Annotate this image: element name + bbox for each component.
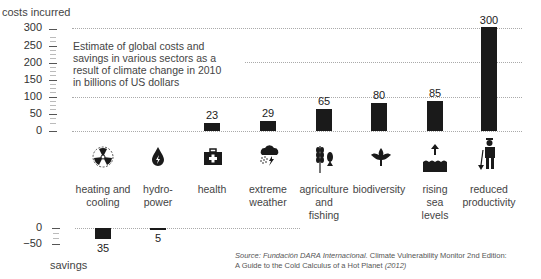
cat-line: productivity	[454, 196, 524, 209]
source-citation: Source: Fundación DARA Internacional. Cl…	[235, 251, 541, 271]
minor-tick	[50, 123, 56, 124]
minor-tick	[50, 109, 56, 110]
source-line-1: Source: Fundación DARA Internacional. Cl…	[235, 251, 541, 261]
minor-tick	[50, 58, 56, 59]
bar-reduced-productivity	[481, 27, 497, 131]
source-title: Climate Vulnerability Monitor 2nd Editio…	[368, 251, 507, 260]
bar-extreme-weather	[260, 121, 276, 131]
tick-mark	[49, 80, 57, 81]
minor-tick	[50, 37, 56, 38]
water-drop-lightning-icon	[146, 145, 170, 169]
tick-mark	[52, 244, 60, 245]
radiator-fan-icon	[91, 145, 115, 169]
minor-tick	[50, 84, 56, 85]
first-aid-kit-icon	[201, 145, 225, 169]
cat-line: and	[289, 196, 359, 209]
source-line-2: A Guide to the Cold Calculus of a Hot Pl…	[235, 261, 541, 271]
bar-biodiversity	[371, 103, 387, 131]
costs-axis-title: costs incurred	[2, 6, 70, 18]
minor-tick	[50, 50, 56, 51]
desc-line: in billions of US dollars	[73, 76, 263, 88]
tick-150: 150	[2, 73, 42, 85]
bar-rising-sea-levels	[427, 101, 443, 131]
worker-with-shovel-icon	[477, 136, 501, 172]
tick-50: 50	[2, 107, 42, 119]
sea-level-rise-icon	[421, 142, 449, 174]
desc-line: Estimate of global costs and	[73, 40, 263, 52]
storm-cloud-icon	[257, 144, 281, 168]
value-hydropower: 5	[138, 232, 178, 244]
value-rising-sea-levels: 85	[415, 87, 455, 99]
cat-line: levels	[400, 209, 470, 222]
tick-mark	[49, 131, 57, 132]
bar-health	[204, 123, 220, 131]
value-health: 23	[192, 109, 232, 121]
tick-300: 300	[2, 21, 42, 33]
minor-tick	[50, 71, 56, 72]
minor-tick	[50, 41, 56, 42]
desc-line: savings in various sectors as a	[73, 52, 263, 64]
tick-100: 100	[2, 90, 42, 102]
cat-line: reduced	[454, 183, 524, 196]
minor-tick	[50, 92, 56, 93]
tick-mark	[49, 63, 57, 64]
bar-agriculture	[316, 109, 332, 131]
bar-heating-cooling-savings	[95, 228, 111, 239]
minor-tick	[50, 105, 56, 106]
minor-tick	[53, 238, 59, 239]
value-extreme-weather: 29	[248, 107, 288, 119]
source-year: (2012)	[385, 261, 407, 270]
savings-axis-title: savings	[50, 259, 87, 271]
tick-mark	[49, 97, 57, 98]
gridline-0	[72, 131, 522, 132]
wheat-fish-icon	[313, 142, 337, 174]
value-biodiversity: 80	[359, 89, 399, 101]
value-agriculture: 65	[304, 95, 344, 107]
tick-mark	[49, 46, 57, 47]
minor-tick	[53, 233, 59, 234]
tick-mark	[49, 114, 57, 115]
savings-tick-minus-50: −50	[2, 237, 42, 249]
tick-200: 200	[2, 56, 42, 68]
tick-250: 250	[2, 39, 42, 51]
minor-tick	[50, 88, 56, 89]
category-reduced-productivity: reduced productivity	[454, 183, 524, 209]
leaf-icon	[369, 145, 393, 169]
minor-tick	[50, 54, 56, 55]
source-prefix: Source: Fundación DARA Internacional.	[235, 251, 368, 260]
cat-line: fishing	[289, 209, 359, 222]
desc-line: result of climate change in 2010	[73, 64, 263, 76]
bar-hydropower-savings	[150, 228, 166, 230]
savings-tick-0: 0	[2, 221, 42, 233]
tick-mark	[52, 228, 60, 229]
minor-tick	[50, 101, 56, 102]
tick-0: 0	[2, 124, 42, 136]
source-subtitle: A Guide to the Cold Calculus of a Hot Pl…	[235, 261, 385, 270]
minor-tick	[50, 118, 56, 119]
value-reduced-productivity: 300	[469, 14, 509, 26]
cat-line: power	[123, 196, 193, 209]
chart-description: Estimate of global costs and savings in …	[73, 40, 263, 88]
gridline-300	[72, 28, 522, 29]
tick-mark	[49, 29, 57, 30]
value-heating-cooling: 35	[83, 242, 123, 254]
minor-tick	[50, 75, 56, 76]
minor-tick	[50, 67, 56, 68]
